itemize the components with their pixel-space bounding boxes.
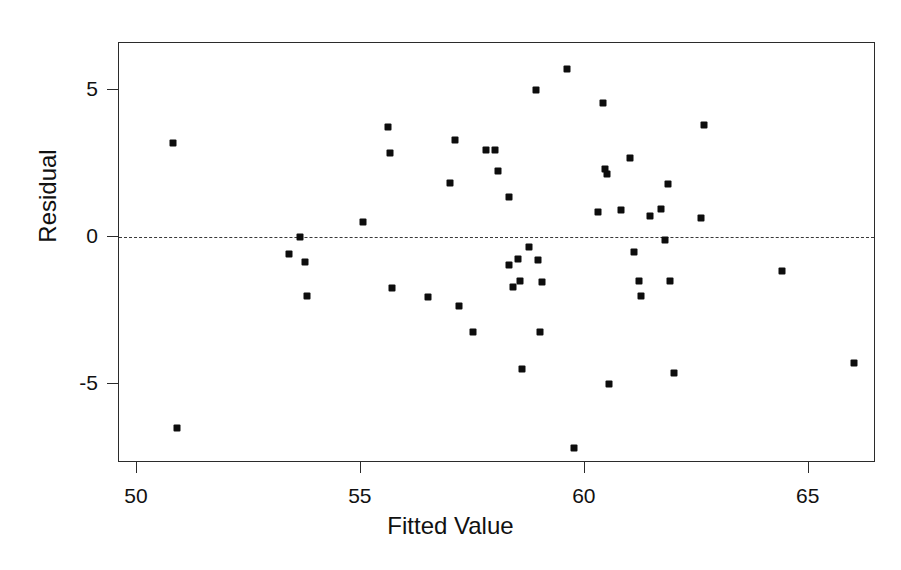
data-point — [698, 214, 705, 221]
data-point — [384, 123, 391, 130]
data-point — [169, 139, 176, 146]
data-point — [532, 86, 539, 93]
data-point — [514, 255, 521, 262]
data-point — [666, 277, 673, 284]
x-tick-mark — [360, 462, 361, 473]
y-tick-mark — [107, 383, 118, 384]
y-tick-mark — [107, 236, 118, 237]
data-point — [662, 236, 669, 243]
y-tick-label: 0 — [86, 224, 98, 248]
x-tick-mark — [136, 462, 137, 473]
y-axis-label: Residual — [34, 96, 62, 296]
data-point — [617, 207, 624, 214]
y-tick-label: -5 — [79, 371, 98, 395]
residual-plot-figure: Residual Fitted Value -505 50556065 — [0, 0, 901, 570]
y-tick-label: 5 — [86, 77, 98, 101]
data-point — [599, 100, 606, 107]
x-tick-label: 60 — [572, 484, 595, 508]
data-point — [301, 258, 308, 265]
data-point — [563, 66, 570, 73]
data-point — [637, 292, 644, 299]
data-point — [606, 380, 613, 387]
y-tick-mark — [107, 89, 118, 90]
x-tick-label: 55 — [348, 484, 371, 508]
x-axis-label: Fitted Value — [0, 512, 901, 540]
data-point — [595, 208, 602, 215]
data-point — [664, 180, 671, 187]
data-point — [537, 329, 544, 336]
data-point — [519, 366, 526, 373]
data-point — [516, 277, 523, 284]
data-point — [494, 167, 501, 174]
plot-area — [119, 43, 874, 461]
zero-reference-line — [119, 237, 874, 238]
data-point — [447, 179, 454, 186]
data-point — [483, 147, 490, 154]
data-point — [505, 261, 512, 268]
data-point — [850, 360, 857, 367]
x-tick-label: 50 — [124, 484, 147, 508]
data-point — [360, 219, 367, 226]
data-point — [286, 251, 293, 258]
data-point — [646, 213, 653, 220]
data-point — [778, 267, 785, 274]
data-point — [456, 302, 463, 309]
plot-frame — [118, 42, 875, 462]
x-tick-mark — [808, 462, 809, 473]
x-tick-label: 65 — [796, 484, 819, 508]
data-point — [451, 136, 458, 143]
data-point — [539, 279, 546, 286]
data-point — [425, 294, 432, 301]
data-point — [570, 445, 577, 452]
data-point — [297, 233, 304, 240]
data-point — [304, 292, 311, 299]
data-point — [631, 248, 638, 255]
data-point — [671, 370, 678, 377]
data-point — [510, 283, 517, 290]
data-point — [389, 285, 396, 292]
data-point — [626, 154, 633, 161]
data-point — [505, 194, 512, 201]
x-tick-mark — [584, 462, 585, 473]
data-point — [657, 205, 664, 212]
clipped-title-artifact — [0, 0, 901, 14]
data-point — [174, 424, 181, 431]
data-point — [635, 277, 642, 284]
data-point — [386, 150, 393, 157]
data-point — [700, 122, 707, 129]
data-point — [604, 170, 611, 177]
data-point — [492, 147, 499, 154]
data-point — [525, 244, 532, 251]
data-point — [534, 257, 541, 264]
data-point — [469, 329, 476, 336]
